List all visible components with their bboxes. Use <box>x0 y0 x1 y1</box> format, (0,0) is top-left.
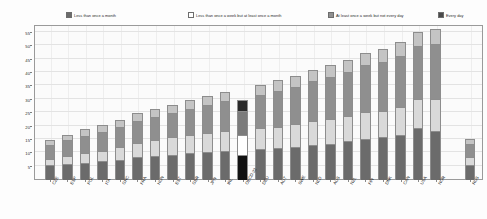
bar-FIN[interactable] <box>360 53 371 180</box>
bar-ESP[interactable] <box>62 135 73 180</box>
legend-item: At least once a week but not every day <box>328 9 404 21</box>
bar-NOR[interactable] <box>430 29 441 180</box>
bar-segment <box>62 156 73 164</box>
bar-segment <box>430 99 441 131</box>
bar-segment <box>343 141 354 180</box>
bar-segment <box>360 139 371 180</box>
bar-NZL[interactable] <box>343 60 354 180</box>
bar-segment <box>167 105 178 113</box>
y-tick-mark <box>30 59 32 60</box>
y-tick-mark <box>30 72 32 73</box>
bar-segment <box>45 159 56 166</box>
bar-segment <box>273 127 284 148</box>
bar-EST[interactable] <box>167 105 178 180</box>
y-tick-mark <box>30 85 32 86</box>
bar-segment <box>465 144 476 157</box>
bar-AUS[interactable] <box>325 65 336 180</box>
bar-segment <box>80 129 91 136</box>
bar-HUN[interactable] <box>150 109 161 180</box>
bar-segment <box>237 135 248 155</box>
bar-POL[interactable] <box>80 129 91 180</box>
y-axis: 510152025303540455055 <box>14 25 32 180</box>
bar-segment <box>150 140 161 156</box>
bar-segment <box>325 65 336 77</box>
bar-CZE[interactable] <box>45 140 56 180</box>
bar-segment <box>132 143 143 158</box>
legend-swatch-icon <box>438 12 444 18</box>
bar-segment <box>167 155 178 180</box>
y-tick-mark <box>30 126 32 127</box>
bar-segment <box>273 148 284 180</box>
bar-OECD-22[interactable] <box>237 100 248 180</box>
bar-segment <box>308 145 319 180</box>
bar-SWE[interactable] <box>290 76 301 180</box>
bar-segment <box>290 87 301 124</box>
bar-segment <box>220 92 231 101</box>
bar-segment <box>97 151 108 162</box>
bar-DEU[interactable] <box>255 85 266 180</box>
bar-segment <box>465 157 476 165</box>
bar-JPN[interactable] <box>202 96 213 180</box>
x-tick-label: IRL <box>226 177 234 185</box>
bar-segment <box>185 100 196 109</box>
bar-GBR[interactable] <box>185 100 196 180</box>
chart-legend: Less than once a monthLess than once a w… <box>38 9 483 21</box>
bar-segment <box>255 85 266 94</box>
bar-segment <box>343 60 354 72</box>
bar-segment <box>80 153 91 162</box>
bar-CAN[interactable] <box>395 42 406 180</box>
bar-segment <box>202 96 213 105</box>
bar-segment <box>378 62 389 110</box>
bar-segment <box>115 147 126 160</box>
bar-AUT[interactable] <box>273 80 284 180</box>
bar-segment <box>290 147 301 180</box>
bar-segment <box>80 136 91 153</box>
bar-segment <box>325 144 336 180</box>
bar-ITA[interactable] <box>97 125 108 180</box>
bar-segment <box>202 105 213 133</box>
bar-segment <box>167 137 178 154</box>
bar-segment <box>413 99 424 128</box>
bar-segment <box>343 116 354 141</box>
bar-DNK[interactable] <box>378 49 389 180</box>
legend-item: Less than once a week but at least once … <box>188 9 282 21</box>
x-tick-mark <box>295 180 296 182</box>
bars-layer <box>34 25 483 180</box>
bar-segment <box>115 127 126 147</box>
bar-segment <box>430 131 441 180</box>
y-tick-mark <box>30 45 32 46</box>
bar-segment <box>237 111 248 135</box>
bar-segment <box>378 137 389 180</box>
bar-segment <box>97 125 108 132</box>
bar-RUS[interactable] <box>465 139 476 180</box>
bar-segment <box>220 131 231 151</box>
bar-segment <box>308 81 319 121</box>
legend-label: At least once a week but not every day <box>336 13 404 18</box>
bar-segment <box>273 91 284 127</box>
bar-USA[interactable] <box>413 32 424 180</box>
bar-segment <box>255 128 266 149</box>
bar-segment <box>430 29 441 44</box>
bar-segment <box>360 65 371 112</box>
bar-segment <box>395 42 406 55</box>
bar-segment <box>255 95 266 128</box>
y-tick-mark <box>30 166 32 167</box>
bar-NLD[interactable] <box>308 70 319 180</box>
bar-segment <box>167 113 178 137</box>
y-tick-mark <box>30 139 32 140</box>
bar-segment <box>132 113 143 121</box>
bar-IRL[interactable] <box>220 92 231 180</box>
bar-segment <box>185 109 196 134</box>
bar-segment <box>343 72 354 116</box>
bar-GRC[interactable] <box>115 120 126 180</box>
bar-segment <box>290 124 301 147</box>
bar-segment <box>395 56 406 107</box>
bar-segment <box>395 107 406 135</box>
bar-FRA[interactable] <box>132 113 143 180</box>
x-tick-mark <box>67 180 68 182</box>
bar-segment <box>185 135 196 154</box>
bar-segment <box>202 133 213 152</box>
bar-segment <box>273 80 284 91</box>
legend-swatch-icon <box>328 12 334 18</box>
bar-segment <box>220 101 231 130</box>
